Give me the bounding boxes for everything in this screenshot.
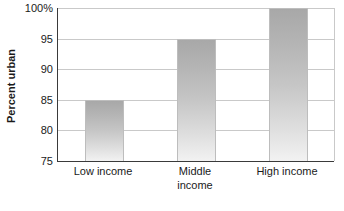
bar-chart: Percent urban 100%9590858075 Low incomeM… <box>0 0 344 211</box>
y-axis-tick-label: 95 <box>41 33 53 44</box>
bar <box>177 39 216 161</box>
y-axis-tick-labels: 100%9590858075 <box>20 0 56 172</box>
x-axis-tick-labels: Low incomeMiddle incomeHigh income <box>57 164 333 209</box>
y-axis-tick-label: 85 <box>41 94 53 105</box>
y-axis-tick-label: 90 <box>41 64 53 75</box>
plot-frame-right <box>334 8 335 161</box>
y-axis-tick-label: 75 <box>41 156 53 167</box>
y-axis-tick-label: 80 <box>41 125 53 136</box>
x-axis-tick-label: High income <box>241 164 333 178</box>
y-axis-tick-label: 100% <box>25 3 53 14</box>
bar <box>85 100 124 161</box>
y-axis-title-text: Percent urban <box>5 49 17 123</box>
y-axis-title: Percent urban <box>0 0 22 172</box>
x-axis-tick-label: Low income <box>57 164 149 178</box>
bar <box>269 8 308 161</box>
plot-area <box>57 8 334 162</box>
x-axis-tick-label: Middle income <box>149 164 241 192</box>
